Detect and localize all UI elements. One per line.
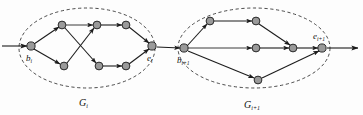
edge-bi-u1 — [34, 27, 59, 44]
node-eip1[interactable] — [318, 44, 326, 52]
node-labels: bi ei bi+1 ei+1 — [26, 31, 325, 66]
node-m1[interactable] — [252, 44, 260, 52]
node-t2[interactable] — [252, 17, 260, 25]
edge-t2-m2 — [259, 24, 290, 45]
inter-group-edge — [157, 47, 180, 48]
edge-bip1-b1 — [188, 51, 254, 78]
node-bip1[interactable] — [180, 44, 188, 52]
node-u3[interactable] — [122, 21, 130, 29]
group-boundary-gi — [19, 8, 155, 88]
graph-figure: bi ei bi+1 ei+1 Gi Gi+1 — [0, 0, 363, 115]
node-d1[interactable] — [60, 62, 68, 70]
graph-gi-edges — [34, 25, 149, 66]
node-ei[interactable] — [148, 42, 156, 50]
node-u1[interactable] — [58, 21, 66, 29]
edge-d1-u2 — [67, 28, 94, 63]
graph-gi-nodes — [27, 21, 156, 70]
node-u2[interactable] — [93, 21, 101, 29]
edge-bi-d1 — [34, 49, 60, 64]
node-d3[interactable] — [122, 62, 130, 70]
group-labels: Gi Gi+1 — [79, 97, 260, 111]
graph-gi1-nodes — [180, 17, 326, 84]
node-d2[interactable] — [95, 62, 103, 70]
edge-bip1-t1 — [187, 24, 207, 46]
node-b1[interactable] — [254, 76, 262, 84]
edge-u3-ei — [129, 27, 149, 43]
label-bi: bi — [26, 53, 33, 64]
node-t1[interactable] — [206, 17, 214, 25]
edge-d3-ei — [129, 49, 149, 64]
label-bip1: bi+1 — [177, 55, 190, 66]
label-ei: ei — [147, 53, 153, 64]
label-gi1: Gi+1 — [244, 99, 260, 111]
node-bi[interactable] — [27, 42, 35, 50]
edge-b1-eip1 — [262, 51, 319, 78]
node-m2[interactable] — [289, 44, 297, 52]
label-eip1: ei+1 — [313, 31, 325, 42]
label-gi: Gi — [79, 97, 88, 109]
graph-canvas: bi ei bi+1 ei+1 Gi Gi+1 — [0, 0, 363, 115]
